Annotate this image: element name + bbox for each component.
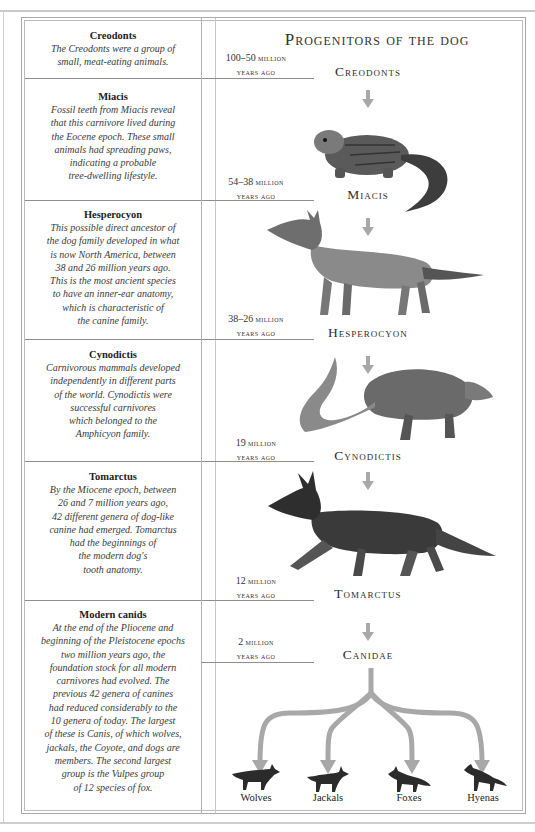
down-arrow-icon — [362, 623, 374, 641]
entry-name: Modern canids — [29, 609, 197, 620]
page-bottom-rule — [0, 822, 535, 824]
descendant-label-foxes: Foxes — [374, 792, 444, 803]
entry-name: Hesperocyon — [29, 209, 197, 220]
entry-description: The Creodonts were a group of small, mea… — [29, 42, 197, 69]
cynodictis-illustration — [295, 352, 495, 447]
entry-name: Creodonts — [29, 30, 197, 41]
page-title: Progenitors of the dog — [232, 30, 522, 50]
descendant-label-jackals: Jackals — [293, 792, 363, 803]
page-left-rule — [3, 10, 4, 822]
miacis-illustration — [305, 120, 465, 215]
stage-label-tomarctus: Tomarctus — [268, 586, 468, 602]
entry-description: This possible direct ancestor of the dog… — [29, 221, 197, 327]
entry-tomarctus: Tomarctus By the Miocene epoch, between … — [25, 471, 201, 576]
page-top-rule — [0, 10, 535, 12]
hyena-silhouette-icon — [462, 764, 508, 792]
stage-label-canidae: Canidae — [268, 647, 468, 663]
fox-silhouette-icon — [386, 766, 432, 794]
row-divider — [25, 339, 201, 340]
entry-name: Cynodictis — [29, 349, 197, 360]
tomarctus-illustration — [268, 468, 498, 583]
stage-label-hesperocyon: Hesperocyon — [268, 325, 468, 341]
entry-modern-canids: Modern canids At the end of the Pliocene… — [25, 609, 201, 794]
down-arrow-icon — [362, 90, 374, 108]
jackal-silhouette-icon — [305, 765, 351, 793]
entry-description: Carnivorous mammals developed independen… — [29, 361, 197, 441]
descendant-label-hyenas: Hyenas — [448, 792, 518, 803]
stage-label-cynodictis: Cynodictis — [268, 448, 468, 464]
entry-name: Tomarctus — [29, 471, 197, 482]
entry-description: By the Miocene epoch, between 26 and 7 m… — [29, 483, 197, 576]
wolf-silhouette-icon — [230, 762, 282, 792]
entry-description: At the end of the Pliocene and beginning… — [29, 621, 197, 794]
row-divider — [25, 200, 201, 201]
row-divider — [25, 78, 201, 79]
row-divider — [25, 600, 201, 601]
entry-miacis: Miacis Fossil teeth from Miacis reveal t… — [25, 91, 201, 183]
descendant-label-wolves: Wolves — [221, 792, 291, 803]
row-divider — [25, 461, 201, 462]
entry-hesperocyon: Hesperocyon This possible direct ancesto… — [25, 209, 201, 327]
hesperocyon-illustration — [262, 205, 487, 320]
entry-creodonts: Creodonts The Creodonts were a group of … — [25, 30, 201, 69]
column-divider — [201, 18, 202, 813]
entry-description: Fossil teeth from Miacis reveal that thi… — [29, 103, 197, 183]
entry-name: Miacis — [29, 91, 197, 102]
stage-label-creodonts: Creodonts — [268, 64, 468, 80]
entry-cynodictis: Cynodictis Carnivorous mammals developed… — [25, 349, 201, 441]
column-divider-secondary — [215, 18, 216, 813]
